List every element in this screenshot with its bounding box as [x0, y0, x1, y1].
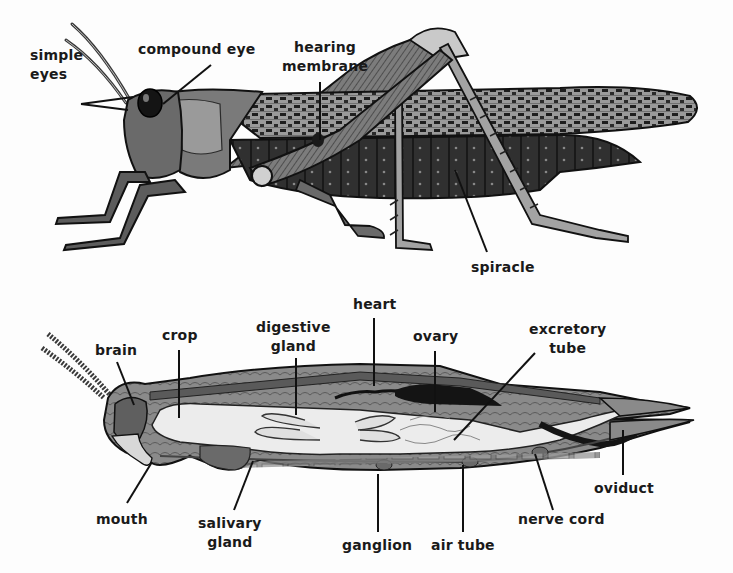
- label-heart: heart: [353, 295, 397, 314]
- label-nerve-cord: nerve cord: [518, 510, 605, 529]
- label-digestive-gland: digestive gland: [256, 318, 331, 356]
- label-salivary-gland: salivary gland: [198, 514, 262, 552]
- forewing: [205, 87, 697, 138]
- label-air-tube: air tube: [431, 536, 495, 555]
- label-simple-eyes: simple eyes: [30, 46, 83, 84]
- label-ovary: ovary: [413, 327, 458, 346]
- label-brain: brain: [95, 341, 137, 360]
- label-oviduct: oviduct: [594, 479, 654, 498]
- grasshopper-diagram: simple eyes compound eye hearing membran…: [0, 0, 733, 573]
- label-compound-eye: compound eye: [138, 40, 256, 59]
- front-legs: [56, 172, 185, 250]
- label-excretory-tube: excretory tube: [529, 320, 606, 358]
- label-ganglion: ganglion: [342, 536, 412, 555]
- label-crop: crop: [162, 326, 198, 345]
- label-spiracle: spiracle: [471, 258, 535, 277]
- compound-eye-shape: [138, 89, 162, 117]
- label-hearing-membrane: hearing membrane: [282, 38, 368, 76]
- label-mouth: mouth: [96, 510, 148, 529]
